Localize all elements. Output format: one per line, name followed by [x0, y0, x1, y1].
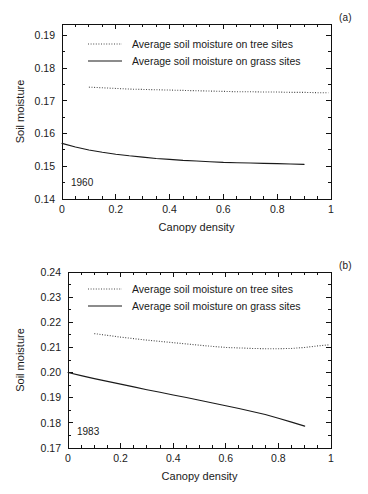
x-tick-label: 1: [328, 203, 334, 215]
y-tick-label: 0.19: [41, 391, 62, 403]
x-tick-label: 0.4: [166, 452, 181, 464]
y-axis-title: Soil moisture: [14, 80, 26, 144]
y-tick-label: 0.20: [41, 366, 62, 378]
series-line-tree-sites: [89, 87, 328, 93]
x-axis-title: Canopy density: [159, 221, 235, 233]
y-tick-label: 0.16: [35, 127, 56, 139]
panel-a-plot: 00.20.40.60.810.140.150.160.170.180.19Ca…: [0, 0, 368, 248]
x-tick-label: 0.2: [108, 203, 123, 215]
year-annotation: 1960: [71, 177, 94, 188]
x-tick-label: 0: [65, 452, 71, 464]
y-tick-label: 0.24: [41, 266, 62, 278]
legend-grass-sites-label: Average soil moisture on grass sites: [132, 55, 300, 67]
y-tick-label: 0.22: [41, 316, 62, 328]
x-tick-label: 0.6: [216, 203, 231, 215]
x-axis-title: Canopy density: [162, 470, 238, 482]
y-tick-label: 0.19: [35, 29, 56, 41]
y-tick-label: 0.15: [35, 160, 56, 172]
y-tick-label: 0.17: [41, 442, 62, 454]
x-tick-label: 0.8: [271, 452, 286, 464]
y-axis-title: Soil moisture: [14, 328, 26, 392]
legend-grass-sites-label: Average soil moisture on grass sites: [132, 300, 300, 312]
x-tick-label: 0.2: [113, 452, 128, 464]
chart-panel-b: (b) 00.20.40.60.810.170.180.190.200.210.…: [0, 248, 368, 494]
x-tick-label: 0.4: [162, 203, 177, 215]
x-tick-label: 0: [59, 203, 65, 215]
x-tick-label: 0.6: [218, 452, 233, 464]
y-tick-label: 0.18: [41, 417, 62, 429]
series-line-grass-sites: [68, 373, 305, 427]
y-tick-label: 0.23: [41, 291, 62, 303]
y-tick-label: 0.18: [35, 62, 56, 74]
x-tick-label: 1: [328, 452, 334, 464]
panel-b-plot: 00.20.40.60.810.170.180.190.200.210.220.…: [0, 248, 368, 494]
y-tick-label: 0.17: [35, 95, 56, 107]
series-line-tree-sites: [94, 334, 328, 349]
x-tick-label: 0.8: [270, 203, 285, 215]
chart-panel-a: (a) 00.20.40.60.810.140.150.160.170.180.…: [0, 0, 368, 248]
y-tick-label: 0.21: [41, 341, 62, 353]
year-annotation: 1983: [77, 426, 100, 437]
series-line-grass-sites: [62, 143, 304, 164]
figure-soil-moisture-vs-canopy-density: (a) 00.20.40.60.810.140.150.160.170.180.…: [0, 0, 368, 494]
legend-tree-sites-label: Average soil moisture on tree sites: [132, 38, 293, 50]
legend-tree-sites-label: Average soil moisture on tree sites: [132, 283, 293, 295]
y-tick-label: 0.14: [35, 193, 56, 205]
